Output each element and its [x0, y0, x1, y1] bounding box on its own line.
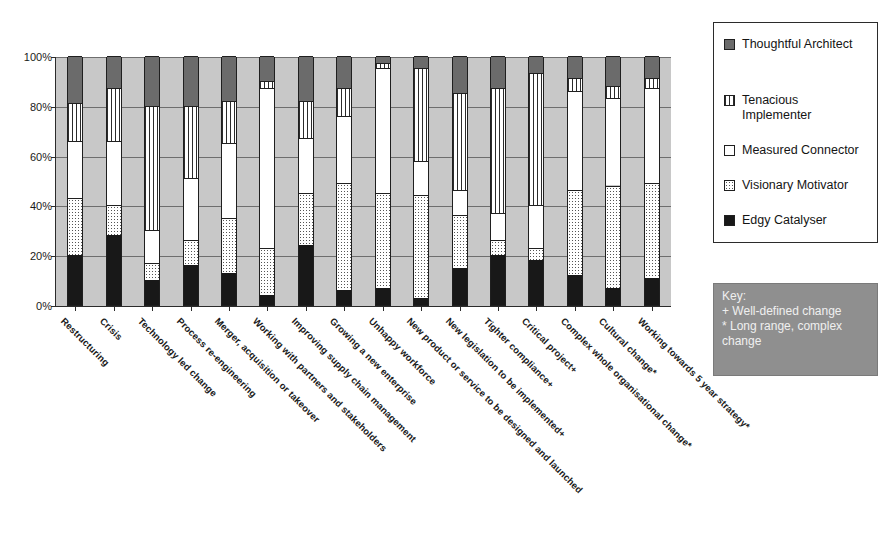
bar-segment — [606, 56, 620, 86]
y-tick-label: 60% — [30, 151, 52, 162]
legend-label: Visionary Motivator — [742, 178, 848, 193]
legend-label: Tenacious Implementer — [742, 93, 852, 123]
bar-segment — [645, 88, 659, 183]
x-axis-label: New product or service to be designed an… — [405, 316, 584, 495]
bar-segment — [107, 88, 121, 140]
bar-segment — [184, 265, 198, 305]
stacked-bar[interactable] — [106, 57, 122, 306]
stacked-bar[interactable] — [375, 57, 391, 306]
stacked-bar[interactable] — [144, 57, 160, 306]
y-axis-tick — [51, 256, 56, 257]
bar-segment — [491, 213, 505, 240]
stacked-bar[interactable] — [336, 57, 352, 306]
legend-item[interactable]: Tenacious Implementer — [724, 93, 852, 123]
stacked-bar[interactable] — [644, 57, 660, 306]
stacked-bar[interactable] — [259, 57, 275, 306]
bar-segment — [260, 88, 274, 247]
bar-segment — [68, 198, 82, 255]
key-box: Key: + Well-defined change * Long range,… — [713, 283, 878, 376]
bar-segment — [337, 290, 351, 305]
bar-segment — [337, 116, 351, 183]
bar-segment — [145, 263, 159, 280]
bar-segment — [414, 56, 428, 68]
legend-label: Measured Connector — [742, 143, 859, 158]
bar-segment — [376, 63, 390, 68]
key-box-line-2: * Long range, complex change — [722, 319, 872, 349]
y-axis-tick-labels: 0%20%40%60%80%100% — [8, 50, 52, 310]
bar-segment — [568, 190, 582, 275]
legend-label: Thoughtful Architect — [742, 37, 852, 52]
y-axis-tick — [51, 107, 56, 108]
bar-segment — [222, 56, 236, 101]
bar-segment — [145, 56, 159, 106]
bar-segment — [414, 195, 428, 297]
bar-segment — [491, 56, 505, 88]
y-axis-tick — [51, 57, 56, 58]
bar-segment — [376, 193, 390, 288]
stacked-bar[interactable] — [221, 57, 237, 306]
bar-segment — [606, 288, 620, 305]
bar-segment — [453, 93, 467, 190]
bar-segment — [68, 56, 82, 103]
bar-segment — [376, 288, 390, 305]
key-box-title: Key: — [722, 289, 872, 304]
legend-swatch-icon — [724, 215, 735, 226]
stacked-bar[interactable] — [413, 57, 429, 306]
stacked-bar[interactable] — [528, 57, 544, 306]
stacked-bar[interactable] — [605, 57, 621, 306]
bar-segment — [568, 91, 582, 191]
stacked-bar[interactable] — [567, 57, 583, 306]
x-axis-label: Unhappy workforce — [367, 316, 438, 387]
bar-segment — [68, 255, 82, 305]
legend-item[interactable]: Visionary Motivator — [724, 178, 848, 193]
bar-segment — [145, 106, 159, 231]
x-axis-label: Technology led change — [136, 316, 219, 399]
bar-segment — [222, 218, 236, 273]
bar-segment — [529, 260, 543, 305]
bar-segment — [145, 230, 159, 262]
bar-segment — [299, 56, 313, 101]
bar-segment — [414, 161, 428, 196]
y-tick-label: 80% — [30, 101, 52, 112]
chart-plot-wrapper: 0%20%40%60%80%100% RestructuringCrisisTe… — [0, 0, 700, 539]
bar-segment — [260, 248, 274, 295]
stacked-bar[interactable] — [490, 57, 506, 306]
bar-segment — [414, 298, 428, 305]
y-tick-label: 100% — [24, 52, 52, 63]
legend-item[interactable]: Edgy Catalyser — [724, 213, 827, 228]
bar-segment — [145, 280, 159, 305]
bar-segment — [299, 138, 313, 193]
x-axis-label: Working with partners and stakeholders — [251, 316, 389, 454]
stacked-bar[interactable] — [67, 57, 83, 306]
legend-item[interactable]: Thoughtful Architect — [724, 37, 852, 52]
stacked-bar[interactable] — [183, 57, 199, 306]
bar-segment — [260, 56, 274, 81]
bar-segment — [376, 68, 390, 193]
bar-segment — [376, 56, 390, 63]
legend-item[interactable]: Measured Connector — [724, 143, 859, 158]
y-axis-tick — [51, 306, 56, 307]
y-tick-label: 20% — [30, 251, 52, 262]
bar-segment — [184, 178, 198, 240]
legend-swatch-icon — [724, 180, 735, 191]
bar-segment — [414, 68, 428, 160]
bar-segment — [184, 106, 198, 178]
bar-segment — [606, 86, 620, 98]
y-tick-label: 40% — [30, 201, 52, 212]
key-box-line-1: + Well-defined change — [722, 304, 872, 319]
y-axis-tick — [51, 206, 56, 207]
bar-segment — [299, 193, 313, 245]
bar-segment — [299, 245, 313, 305]
bar-segment — [337, 88, 351, 115]
bar-segment — [107, 235, 121, 305]
stacked-bars — [56, 57, 671, 306]
stacked-bar[interactable] — [452, 57, 468, 306]
bar-segment — [645, 78, 659, 88]
bar-segment — [453, 268, 467, 305]
bar-segment — [568, 56, 582, 78]
bar-segment — [568, 78, 582, 90]
bar-segment — [491, 240, 505, 255]
bar-segment — [222, 273, 236, 305]
stacked-bar[interactable] — [298, 57, 314, 306]
bar-segment — [184, 240, 198, 265]
